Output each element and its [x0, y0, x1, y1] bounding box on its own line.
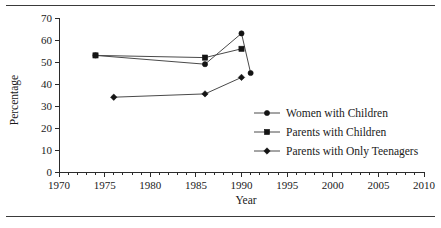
data-point	[239, 46, 244, 51]
y-tick-label: 70	[41, 12, 53, 24]
legend-marker-diamond	[264, 148, 270, 154]
legend-marker-square	[264, 129, 269, 134]
line-chart: 010203040506070 197019751980198519901995…	[0, 0, 441, 228]
data-point	[238, 74, 244, 80]
x-tick-label: 1980	[139, 179, 162, 191]
data-point	[248, 70, 253, 75]
data-point	[202, 55, 207, 60]
legend-item-label: Parents with Children	[286, 126, 387, 138]
data-point	[202, 62, 207, 67]
series-line	[114, 77, 242, 97]
x-tick-label: 1990	[231, 179, 254, 191]
series-line	[96, 33, 251, 73]
legend-item-label: Women with Children	[286, 107, 388, 119]
legend-item-label: Parents with Only Teenagers	[286, 145, 419, 158]
y-axis-title: Percentage	[8, 75, 21, 125]
y-tick-label: 0	[47, 166, 53, 178]
y-tick-label: 50	[41, 56, 53, 68]
y-tick-label: 20	[41, 122, 53, 134]
legend-marker-circle	[264, 110, 269, 115]
chart-legend: Women with ChildrenParents with Children…	[254, 107, 419, 158]
data-point	[239, 31, 244, 36]
x-tick-label: 1975	[94, 179, 117, 191]
x-tick-label: 1970	[48, 179, 71, 191]
figure-container: 010203040506070 197019751980198519901995…	[0, 0, 441, 228]
x-tick-label: 1995	[276, 179, 299, 191]
data-point	[93, 53, 98, 58]
data-point	[111, 94, 117, 100]
data-point	[202, 91, 208, 97]
x-tick-label: 2010	[413, 179, 436, 191]
series-line	[96, 49, 242, 58]
x-tick-label: 1985	[185, 179, 208, 191]
x-axis-title: Year	[235, 194, 256, 206]
y-tick-label: 30	[41, 100, 53, 112]
series-layer	[93, 31, 253, 101]
y-tick-label: 10	[41, 144, 53, 156]
y-axis: 010203040506070	[41, 12, 59, 178]
x-axis: 197019751980198519901995200020052010	[48, 172, 436, 191]
y-tick-label: 40	[41, 78, 53, 90]
y-tick-label: 60	[41, 34, 53, 46]
x-tick-label: 2005	[367, 179, 390, 191]
x-tick-label: 2000	[322, 179, 345, 191]
